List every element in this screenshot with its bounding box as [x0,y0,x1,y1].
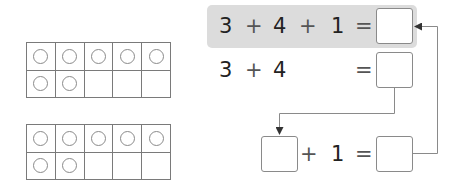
row2-answer-box[interactable] [376,52,413,88]
row2-equals: = [355,60,373,81]
row2-num-a: 3 [219,60,232,81]
row2-num-b: 4 [273,60,286,81]
row3-num-b: 1 [331,144,344,165]
row1-plus-2: + [299,16,317,37]
row3-first-addend-box[interactable] [261,136,298,172]
row1-plus-1: + [245,16,263,37]
row1-answer-box[interactable] [376,8,413,44]
row3-equals: = [355,144,373,165]
row1-equals: = [355,16,373,37]
row3-plus: + [300,144,318,165]
row1-num-b: 4 [273,16,286,37]
row1-num-c: 1 [331,16,344,37]
row3-answer-box[interactable] [376,136,413,172]
row2-plus: + [245,60,263,81]
row1-num-a: 3 [219,16,232,37]
